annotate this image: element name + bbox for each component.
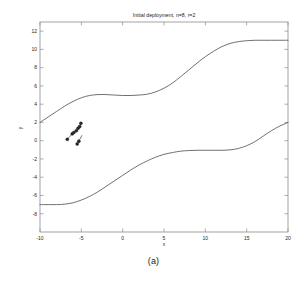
sensor-node-marker — [78, 125, 81, 128]
x-tick-label: 0 — [121, 235, 124, 241]
y-tick-label: 8 — [34, 64, 37, 70]
x-tick-label: 15 — [244, 235, 250, 241]
figure-caption: (a) — [0, 256, 307, 266]
x-tick-label: 10 — [203, 235, 209, 241]
y-tick-label: 10 — [31, 46, 37, 52]
x-tick-label: -5 — [79, 235, 84, 241]
x-tick-label: -10 — [36, 235, 43, 241]
y-tick-label: 6 — [34, 83, 37, 89]
y-tick-label: 2 — [34, 119, 37, 125]
y-tick-label: -8 — [33, 211, 38, 217]
figure-background — [0, 0, 307, 282]
chart-title: Initial deployment, n=8, r=2 — [133, 12, 196, 18]
x-tick-label: 20 — [285, 235, 291, 241]
y-tick-label: 4 — [34, 101, 37, 107]
y-tick-label: 0 — [34, 137, 37, 143]
sensor-node-marker — [66, 138, 69, 141]
sensor-node-marker — [77, 140, 80, 143]
y-tick-label: 12 — [31, 28, 37, 34]
figure-container: Initial deployment, n=8, r=2 -10-5051015… — [0, 0, 307, 282]
y-tick-label: -4 — [33, 174, 38, 180]
sensor-node-marker — [76, 142, 79, 145]
plot-canvas: Initial deployment, n=8, r=2 -10-5051015… — [0, 0, 307, 282]
y-tick-label: -2 — [33, 156, 38, 162]
sensor-node-marker — [79, 122, 82, 125]
y-tick-label: -6 — [33, 192, 38, 198]
